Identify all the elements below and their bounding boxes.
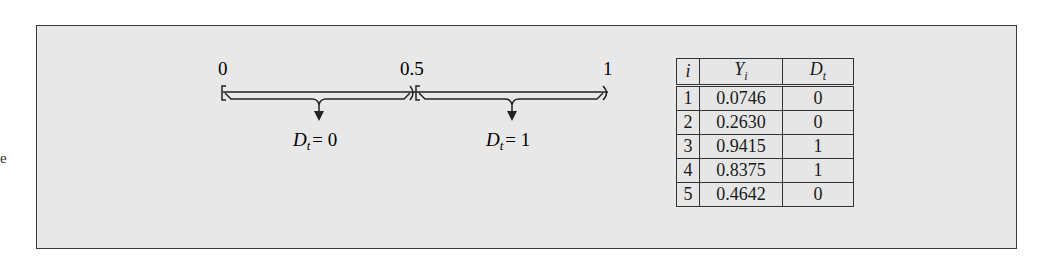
cell-d: 1: [783, 158, 854, 182]
number-line-diagram: 0 0.5 1 Dt= 0 Dt= 1: [0, 0, 1049, 271]
cell-y: 0.9415: [700, 134, 783, 158]
table-row: 1 0.0746 0: [677, 85, 854, 110]
cell-d: 1: [783, 134, 854, 158]
table-row: 5 0.4642 0: [677, 182, 854, 206]
random-numbers-table: i Yi Dt 1 0.0746 0 2 0.2630 0 3 0.9415 1…: [676, 58, 854, 207]
cell-y: 0.0746: [700, 85, 783, 110]
tick-label-1: 1: [603, 58, 613, 79]
tick-label-0-5: 0.5: [400, 58, 424, 79]
arrow-down-icon: [507, 111, 517, 121]
cell-y: 0.2630: [700, 110, 783, 134]
cell-y: 0.8375: [700, 158, 783, 182]
arrow-down-icon: [314, 111, 324, 121]
header-y: Yi: [700, 59, 783, 86]
table-row: 4 0.8375 1: [677, 158, 854, 182]
brace-interval-1: [419, 93, 603, 105]
outcome-label-1: Dt= 1: [485, 129, 530, 153]
table-row: 2 0.2630 0: [677, 110, 854, 134]
brace-interval-0: [225, 93, 410, 105]
cell-i: 2: [677, 110, 700, 134]
header-d: Dt: [783, 59, 854, 86]
tick-label-0: 0: [218, 58, 228, 79]
cell-i: 1: [677, 85, 700, 110]
cell-i: 5: [677, 182, 700, 206]
cell-d: 0: [783, 182, 854, 206]
cell-d: 0: [783, 110, 854, 134]
cell-i: 4: [677, 158, 700, 182]
table-header-row: i Yi Dt: [677, 59, 854, 86]
right-open-paren-icon: [603, 86, 607, 100]
cell-i: 3: [677, 134, 700, 158]
table-row: 3 0.9415 1: [677, 134, 854, 158]
cell-d: 0: [783, 85, 854, 110]
open-paren-at-half-icon: [410, 86, 413, 100]
header-i: i: [677, 59, 700, 86]
cell-y: 0.4642: [700, 182, 783, 206]
outcome-label-0: Dt= 0: [292, 129, 337, 153]
